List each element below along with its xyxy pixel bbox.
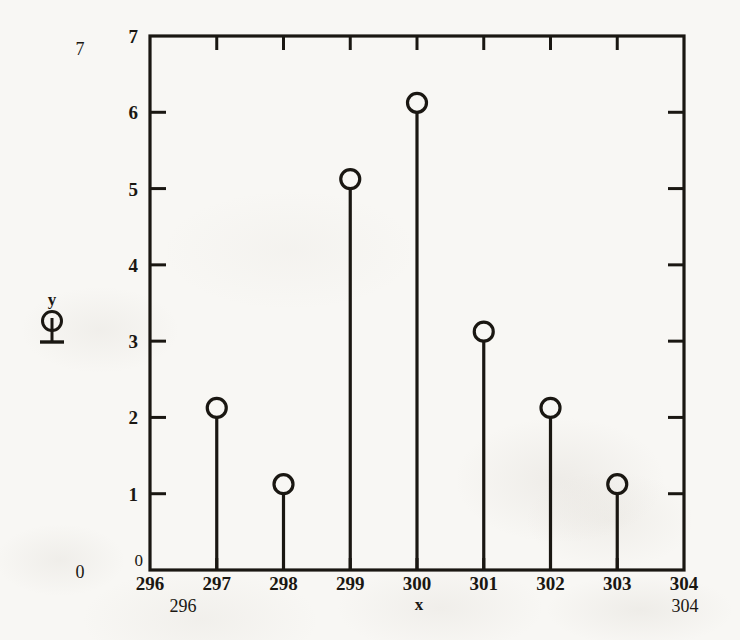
- x-tick-label-group: 296297298299300301302303304: [136, 573, 699, 594]
- stem-point: [408, 93, 427, 570]
- outer-x-min-label: 296: [170, 596, 197, 616]
- y-tick-label: 3: [129, 331, 139, 352]
- y-axis-ticks-left: [150, 112, 166, 493]
- axis-origin-zero-label: 0: [135, 551, 144, 570]
- outer-y-max-label: 7: [76, 39, 85, 59]
- x-tick-label: 299: [336, 573, 365, 594]
- plot-canvas: 296297298299300301302303304 1234567 0 7 …: [0, 0, 740, 640]
- y-tick-label: 5: [129, 179, 139, 200]
- y-tick-label: 1: [129, 484, 139, 505]
- y-axis-label: y: [48, 290, 57, 309]
- y-tick-label: 7: [129, 26, 139, 47]
- x-tick-label: 301: [470, 573, 499, 594]
- stem-point: [541, 398, 560, 570]
- stem-point: [474, 322, 493, 570]
- y-tick-label-group: 1234567: [129, 26, 139, 505]
- stem-series: [207, 93, 627, 570]
- y-axis-ticks-right: [668, 112, 684, 493]
- stem-point: [207, 398, 226, 570]
- x-tick-label: 302: [536, 573, 565, 594]
- x-tick-label: 296: [136, 573, 165, 594]
- x-axis-label: x: [415, 595, 424, 614]
- y-tick-label: 2: [129, 407, 139, 428]
- stem-point: [274, 475, 293, 570]
- x-tick-label: 297: [203, 573, 232, 594]
- x-tick-label: 303: [603, 573, 632, 594]
- x-tick-label: 304: [670, 573, 699, 594]
- x-tick-label: 298: [269, 573, 298, 594]
- x-tick-label: 300: [403, 573, 432, 594]
- outer-y-min-label: 0: [76, 562, 85, 582]
- x-axis-ticks-top: [217, 36, 618, 50]
- y-tick-label: 4: [129, 255, 139, 276]
- y-tick-label: 6: [129, 102, 139, 123]
- stem-marker-glyph: [40, 312, 64, 343]
- stem-point: [341, 170, 360, 570]
- outer-x-max-label: 304: [672, 596, 699, 616]
- stem-point: [608, 475, 627, 570]
- stem-plot-figure: 296297298299300301302303304 1234567 0 7 …: [0, 0, 740, 640]
